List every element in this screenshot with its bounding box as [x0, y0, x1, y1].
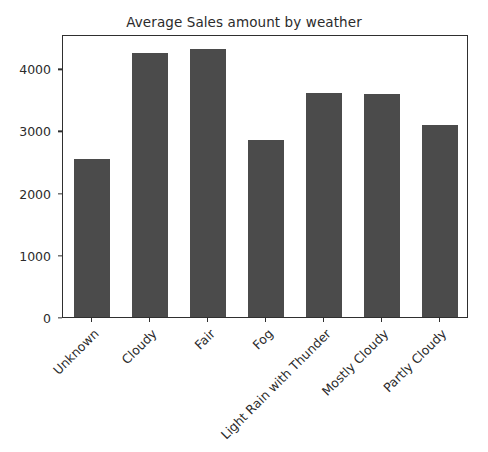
- bar: [248, 140, 284, 317]
- bars-layer: [63, 36, 467, 317]
- y-tick-label: 3000: [19, 124, 51, 139]
- bar: [74, 159, 110, 317]
- x-tick-mark: [265, 318, 266, 322]
- y-axis: 01000200030004000: [0, 35, 62, 318]
- x-tick-label: Fair: [192, 326, 218, 352]
- x-tick-mark: [381, 318, 382, 322]
- chart-figure: Average Sales amount by weather 01000200…: [0, 0, 488, 452]
- bar: [422, 125, 458, 317]
- x-tick-mark: [91, 318, 92, 322]
- x-tick-mark: [207, 318, 208, 322]
- bar: [306, 93, 342, 317]
- x-tick-label: Light Rain with Thunder: [218, 326, 334, 442]
- x-tick-mark: [323, 318, 324, 322]
- x-tick-mark: [439, 318, 440, 322]
- y-tick-label: 2000: [19, 186, 51, 201]
- y-tick-label: 4000: [19, 62, 51, 77]
- x-tick-mark: [149, 318, 150, 322]
- plot-area: [62, 35, 468, 318]
- bar: [190, 49, 226, 317]
- y-tick-label: 0: [43, 311, 51, 326]
- x-tick-label: Unknown: [50, 326, 102, 378]
- x-tick-label: Cloudy: [119, 326, 160, 367]
- bar: [364, 94, 400, 317]
- x-tick-label: Fog: [250, 326, 276, 352]
- x-axis: UnknownCloudyFairFogLight Rain with Thun…: [62, 318, 468, 448]
- y-tick-label: 1000: [19, 248, 51, 263]
- chart-title: Average Sales amount by weather: [0, 14, 488, 30]
- bar: [132, 53, 168, 317]
